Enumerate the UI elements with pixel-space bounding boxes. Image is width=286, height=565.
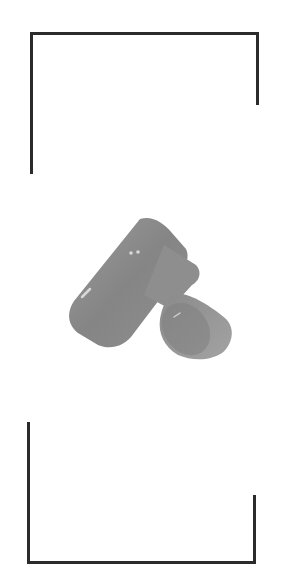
viewfinder-top-edge	[30, 32, 259, 35]
viewfinder-bottom-edge	[27, 561, 256, 564]
viewfinder-bottom-right-edge	[253, 495, 256, 564]
viewfinder-top-left-edge	[30, 32, 33, 174]
viewfinder-bottom-left-edge	[27, 422, 30, 564]
camera-icon	[60, 205, 240, 365]
viewfinder-top-right-edge	[256, 32, 259, 105]
scan-viewfinder	[0, 0, 286, 565]
